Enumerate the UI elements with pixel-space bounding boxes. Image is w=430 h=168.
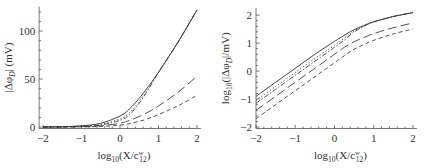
y-tick-label: 0	[247, 65, 253, 77]
series-short-dash-line	[43, 95, 197, 127]
x-tick-label: 2	[410, 132, 416, 144]
axes	[256, 8, 417, 128]
y-tick-label: 100	[19, 25, 36, 37]
x-tick-label: 1	[156, 132, 162, 144]
series-dash-dot-line	[43, 10, 197, 127]
linear-chart-panel: −2−1012050100log10(X/cw12)|ΔφD| (mV)	[0, 0, 215, 168]
series-group	[256, 13, 413, 119]
y-tick-label: 1	[247, 37, 253, 49]
x-tick-label: 2	[194, 132, 200, 144]
series-dotted-line	[256, 13, 413, 101]
x-axis-label: log10(X/cw12)	[314, 149, 367, 164]
x-axis-label: log10(X/cw12)	[98, 149, 151, 164]
x-tick-label: −2	[250, 132, 262, 144]
x-tick-label: −1	[76, 132, 88, 144]
x-tick-label: 0	[117, 132, 123, 144]
y-tick-label: −1	[240, 93, 252, 105]
y-tick-label: 0	[30, 121, 36, 133]
y-axis-label: |ΔφD| (mV)	[2, 42, 17, 92]
series-dotted-line	[43, 10, 197, 127]
axes	[39, 7, 201, 129]
y-tick-label: 50	[24, 73, 36, 85]
x-tick-label: −2	[37, 132, 49, 144]
x-tick-label: 1	[371, 132, 377, 144]
x-tick-label: 0	[332, 132, 338, 144]
x-tick-label: −1	[289, 132, 301, 144]
y-axis-label: log10(|ΔφD|/mV)	[219, 32, 234, 104]
series-solid-line	[43, 10, 197, 127]
y-tick-label: 2	[247, 9, 253, 21]
series-short-dash-line	[256, 29, 413, 119]
series-group	[43, 10, 197, 127]
y-tick-label: −2	[240, 121, 252, 133]
linear-chart: −2−1012050100log10(X/cw12)|ΔφD| (mV)	[0, 0, 215, 168]
series-long-dash-line	[256, 23, 413, 110]
series-long-dash-line	[43, 76, 197, 127]
series-dash-dot-line	[256, 13, 413, 104]
log-chart: −2−1012−2−1012log10(X/cw12)log10(|ΔφD|/m…	[215, 0, 430, 168]
log-chart-panel: −2−1012−2−1012log10(X/cw12)log10(|ΔφD|/m…	[215, 0, 430, 168]
